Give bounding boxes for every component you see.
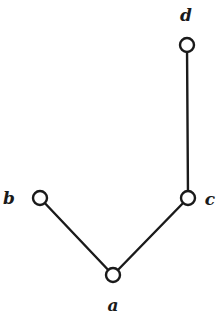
node-c [181,191,195,205]
node-d [180,38,194,52]
node-label-a: a [107,295,118,315]
edges [40,45,188,275]
edge-a-c [113,198,188,275]
nodes [33,38,195,282]
edge-b-a [40,198,113,275]
node-a [106,268,120,282]
node-label-c: c [205,189,216,209]
graph-diagram: dcba [0,0,221,321]
node-b [33,191,47,205]
node-label-b: b [3,188,15,208]
edge-d-c [187,45,188,198]
node-label-d: d [180,5,192,25]
